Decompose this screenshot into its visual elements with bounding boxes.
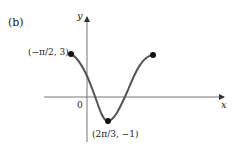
origin-label: 0 [77, 100, 83, 110]
graph-figure: (b) y x 0 (−π/2, 3) (2π/3, −1) [0, 0, 237, 154]
x-axis-label: x [221, 99, 227, 110]
minimum-point-label: (2π/3, −1) [92, 129, 138, 139]
y-axis-label: y [77, 10, 83, 21]
cosine-curve [71, 54, 153, 121]
right-point [150, 52, 156, 58]
panel-label: (b) [8, 16, 24, 29]
left-point [68, 51, 74, 57]
left-point-label: (−π/2, 3) [28, 47, 69, 57]
minimum-point [105, 118, 111, 124]
